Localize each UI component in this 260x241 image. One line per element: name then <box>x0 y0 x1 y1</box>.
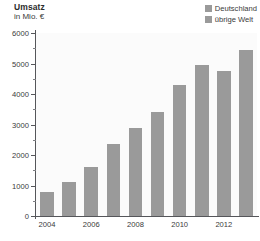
legend-item-label: übrige Welt <box>215 15 253 24</box>
legend-swatch-icon <box>205 16 212 23</box>
bar <box>151 112 165 216</box>
legend-item[interactable]: Deutschland <box>205 4 257 13</box>
y-axis-tick <box>31 216 36 217</box>
bar <box>84 167 98 216</box>
bar-chart: Umsatz in Mio. € Deutschlandübrige Welt … <box>0 0 260 241</box>
x-axis-tick-label: 2010 <box>171 220 188 229</box>
legend-item-label: Deutschland <box>215 4 257 13</box>
x-axis-tick-label: 2008 <box>127 220 144 229</box>
page-title: Umsatz <box>14 3 45 12</box>
bar <box>195 65 209 216</box>
y-axis-tick-label: 1000 <box>12 181 29 190</box>
legend: Deutschlandübrige Welt <box>205 4 257 24</box>
x-axis-tick-label: 2012 <box>215 220 232 229</box>
x-axis-line <box>35 216 259 217</box>
y-axis-tick-label: 6000 <box>12 29 29 38</box>
x-axis-tick-label: 2006 <box>83 220 100 229</box>
plot-area <box>36 33 257 216</box>
title-block: Umsatz in Mio. € <box>14 3 45 21</box>
legend-swatch-icon <box>205 5 212 12</box>
y-axis-tick-label: 4000 <box>12 90 29 99</box>
legend-item[interactable]: übrige Welt <box>205 15 253 24</box>
bar <box>173 85 187 216</box>
bar <box>239 50 253 216</box>
y-axis-tick-label: 2000 <box>12 151 29 160</box>
y-axis-tick-label: 0 <box>25 212 29 221</box>
bar <box>107 144 121 216</box>
y-axis-tick-label: 5000 <box>12 59 29 68</box>
bar <box>129 128 143 216</box>
bar <box>40 192 54 216</box>
y-axis-tick-label: 3000 <box>12 120 29 129</box>
bar <box>62 182 76 216</box>
axis-unit-label: in Mio. € <box>14 13 45 21</box>
x-axis-tick-label: 2004 <box>39 220 56 229</box>
bar <box>217 71 231 216</box>
